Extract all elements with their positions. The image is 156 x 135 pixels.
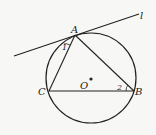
diagram-canvas: A B C O l 1 2 <box>0 0 156 135</box>
label-b: B <box>134 86 142 97</box>
label-l: l <box>140 10 143 21</box>
angle-2-arc <box>126 85 128 91</box>
label-angle-1: 1 <box>62 43 67 52</box>
label-a: A <box>70 24 78 35</box>
center-dot <box>89 77 92 80</box>
label-angle-2: 2 <box>116 83 122 92</box>
geometry-figure: A B C O l 1 2 <box>0 0 156 135</box>
tangent-line-l <box>14 14 139 56</box>
label-o: O <box>80 80 88 91</box>
label-c: C <box>38 86 46 97</box>
